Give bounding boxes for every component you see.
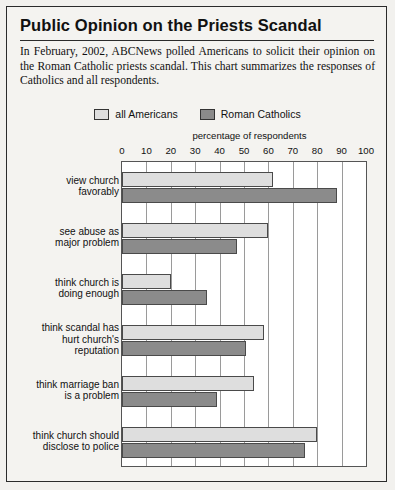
category-label-line: is a problem [15, 390, 119, 402]
bar-all-americans [122, 376, 254, 391]
bar-chart: 0102030405060708090100 [121, 145, 373, 467]
chart-legend: all Americans Roman Catholics [7, 108, 388, 120]
bar-roman-catholics [122, 341, 246, 356]
x-tick-label: 40 [214, 145, 225, 156]
category-axis-labels: view churchfavorablysee abuse asmajor pr… [15, 161, 119, 467]
category-label-line: reputation [15, 345, 119, 357]
legend-swatch-roman-catholics [200, 109, 215, 120]
bar-roman-catholics [122, 188, 337, 203]
bar-roman-catholics [122, 239, 237, 254]
x-axis-title: percentage of respondents [7, 130, 388, 141]
gridline [195, 162, 196, 466]
category-label: think marriage banis a problem [15, 379, 119, 402]
gridline [171, 162, 172, 466]
gridline [293, 162, 294, 466]
gridline [268, 162, 269, 466]
category-label-line: doing enough [15, 288, 119, 300]
bar-all-americans [122, 274, 171, 289]
legend-item-all-americans: all Americans [94, 108, 177, 120]
x-axis-ticks: 0102030405060708090100 [121, 145, 373, 159]
category-label-line: disclose to police [15, 441, 119, 453]
category-label: see abuse asmajor problem [15, 226, 119, 249]
x-tick-label: 80 [312, 145, 323, 156]
category-label-line: view church [15, 175, 119, 187]
x-tick-label: 0 [119, 145, 124, 156]
plot-area [121, 161, 367, 467]
title-divider [20, 40, 374, 41]
gridline [342, 162, 343, 466]
gridline [244, 162, 245, 466]
bar-all-americans [122, 172, 273, 187]
chart-card: Public Opinion on the Priests Scandal In… [6, 6, 387, 482]
x-tick-label: 50 [239, 145, 250, 156]
legend-label-all-americans: all Americans [115, 108, 177, 120]
bar-all-americans [122, 427, 317, 442]
category-label-line: think church should [15, 430, 119, 442]
x-tick-label: 90 [336, 145, 347, 156]
gridline [220, 162, 221, 466]
bar-all-americans [122, 223, 268, 238]
page-title: Public Opinion on the Priests Scandal [20, 16, 322, 35]
legend-swatch-all-americans [94, 109, 109, 120]
bar-roman-catholics [122, 443, 305, 458]
gridline [146, 162, 147, 466]
x-tick-label: 60 [263, 145, 274, 156]
x-tick-label: 30 [190, 145, 201, 156]
category-label: think church shoulddisclose to police [15, 430, 119, 453]
category-label-line: think church is [15, 277, 119, 289]
x-tick-label: 20 [165, 145, 176, 156]
category-label-line: think scandal has [15, 322, 119, 334]
category-label-line: think marriage ban [15, 379, 119, 391]
category-label: think scandal hashurt church'sreputation [15, 322, 119, 357]
bar-roman-catholics [122, 290, 207, 305]
bar-all-americans [122, 325, 264, 340]
legend-label-roman-catholics: Roman Catholics [221, 108, 301, 120]
category-label: view churchfavorably [15, 175, 119, 198]
x-tick-label: 10 [141, 145, 152, 156]
category-label-line: major problem [15, 237, 119, 249]
x-axis-title-text: percentage of respondents [192, 130, 306, 141]
category-label-line: hurt church's [15, 334, 119, 346]
intro-paragraph: In February, 2002, ABCNews polled Americ… [20, 45, 375, 89]
category-label: think church isdoing enough [15, 277, 119, 300]
x-tick-label: 100 [358, 145, 374, 156]
x-tick-label: 70 [287, 145, 298, 156]
category-label-line: see abuse as [15, 226, 119, 238]
legend-item-roman-catholics: Roman Catholics [200, 108, 301, 120]
category-label-line: favorably [15, 186, 119, 198]
gridline [317, 162, 318, 466]
bar-roman-catholics [122, 392, 217, 407]
